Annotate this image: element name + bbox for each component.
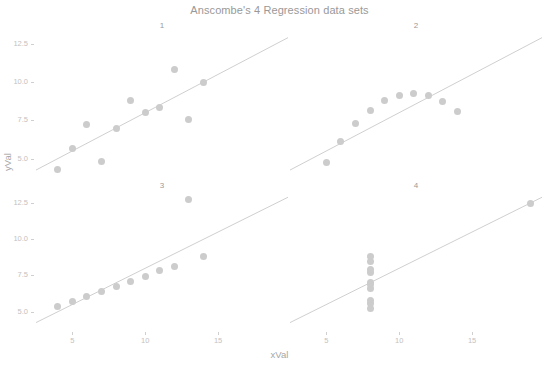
y-tick-label: 7.5 [2,270,28,279]
data-point [142,109,149,116]
y-tick-mark [31,239,34,240]
facet-panel-3 [36,190,288,332]
data-point [367,300,374,307]
y-tick-label: 12.5 [2,198,28,207]
data-point [142,273,149,280]
y-tick-label: 5.0 [2,154,28,163]
x-tick-label: 10 [389,336,409,345]
x-tick-label: 15 [208,336,228,345]
data-point [367,258,374,265]
data-point [69,298,76,305]
facet-panel-2 [290,30,542,180]
data-point [69,145,76,152]
facet-strip-label-3: 3 [147,181,177,190]
page-title: Anscombe's 4 Regression data sets [0,4,559,16]
regression-line-2 [290,30,542,180]
data-point [527,200,534,207]
y-tick-mark [31,312,34,313]
y-tick-mark [31,44,34,45]
facet-strip-label-4: 4 [401,181,431,190]
y-tick-mark [31,120,34,121]
data-point [367,107,374,114]
y-tick-label: 10.0 [2,234,28,243]
data-point [113,283,120,290]
x-axis-label: xVal [0,349,559,360]
data-point [425,92,432,99]
x-tick-mark [218,332,219,335]
x-tick-mark [472,332,473,335]
facet-panel-4 [290,190,542,332]
data-point [367,266,374,273]
data-point [323,159,330,166]
regression-line-4 [290,190,542,332]
y-tick-label: 10.0 [2,77,28,86]
data-point [127,278,134,285]
data-point [171,66,178,73]
y-tick-label: 5.0 [2,307,28,316]
y-tick-label: 12.5 [2,39,28,48]
x-tick-label: 5 [316,336,336,345]
data-point [454,108,461,115]
data-point [396,92,403,99]
facet-strip-label-2: 2 [401,21,431,30]
facet-strip-label-1: 1 [147,21,177,30]
data-point [367,281,374,288]
y-tick-mark [31,203,34,204]
y-tick-mark [31,275,34,276]
y-tick-mark [31,82,34,83]
x-tick-mark [145,332,146,335]
data-point [54,303,61,310]
data-point [171,263,178,270]
data-point [98,288,105,295]
x-tick-mark [326,332,327,335]
data-point [113,125,120,132]
chart-root: Anscombe's 4 Regression data sets yVal x… [0,0,559,370]
x-tick-label: 5 [62,336,82,345]
data-point [127,97,134,104]
data-point [98,158,105,165]
y-tick-label: 7.5 [2,115,28,124]
x-tick-mark [399,332,400,335]
x-tick-label: 10 [135,336,155,345]
data-point [200,253,207,260]
x-tick-mark [72,332,73,335]
regression-line-3 [36,190,288,332]
x-tick-label: 15 [462,336,482,345]
y-tick-mark [31,159,34,160]
facet-panel-1 [36,30,288,180]
